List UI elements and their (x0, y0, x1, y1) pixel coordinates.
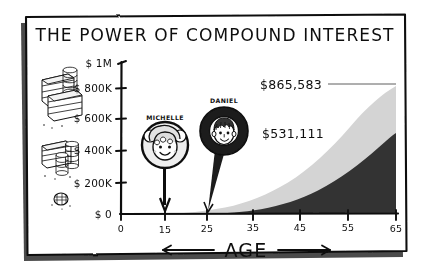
x-tick-label-15: 15 (159, 224, 172, 235)
x-tick-label-0: 0 (118, 223, 124, 234)
y-tick-label-200k: $ 200K (74, 177, 113, 189)
x-tick-label-55: 55 (342, 222, 355, 233)
y-tick-label-1m: $ 1M (85, 57, 112, 69)
annotation-daniel-total: $531,111 (262, 126, 324, 141)
y-tick-label-0: $ 0 (95, 208, 112, 220)
chart-title: THE POWER OF COMPOUND INTEREST (34, 25, 394, 45)
character-label-daniel: DANIEL (210, 97, 238, 104)
x-tick-label-35: 35 (247, 222, 260, 233)
y-tick-label-600k: $ 600K (74, 112, 113, 124)
x-tick-label-25: 25 (201, 223, 214, 234)
x-axis-title: AGE (225, 239, 268, 261)
annotation-michelle-total: $865,583 (260, 77, 322, 92)
cartoon-chart-figure: THE POWER OF COMPOUND INTEREST (0, 0, 430, 276)
x-tick-label-65: 65 (390, 223, 403, 234)
x-tick-label-45: 45 (294, 222, 307, 233)
character-label-michelle: MICHELLE (146, 114, 184, 121)
y-tick-label-800k: $ 800K (74, 82, 113, 94)
y-tick-label-400k: $ 400K (74, 144, 113, 156)
